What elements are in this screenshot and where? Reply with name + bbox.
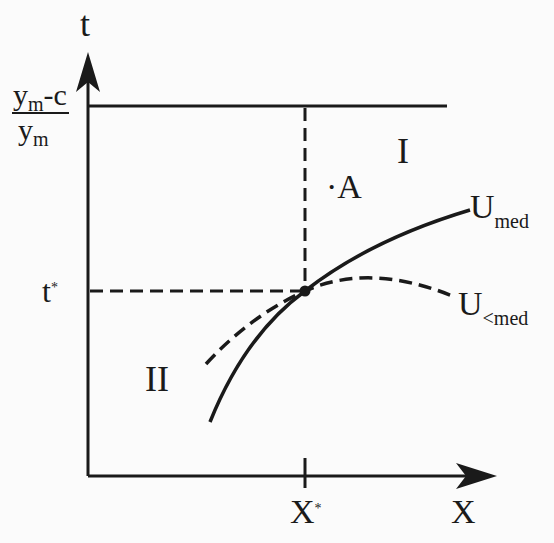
t-star-sup: * xyxy=(51,280,58,295)
denominator-subscript: m xyxy=(33,128,49,150)
fraction-denominator: ym xyxy=(18,115,49,145)
u-med-label: Umed xyxy=(470,190,529,224)
x-star-label: X* xyxy=(290,495,322,529)
x-star-main: X xyxy=(290,493,315,530)
u-below-med-subscript: <med xyxy=(483,307,529,329)
fraction-numerator: ym-c xyxy=(13,80,67,110)
u-below-med-label: U<med xyxy=(458,287,528,321)
diagram-canvas xyxy=(0,0,554,543)
u-med-subscript: med xyxy=(495,210,529,232)
point-a-label: ·A xyxy=(326,170,362,204)
region-2-label: II xyxy=(145,361,169,397)
x-axis-label: X xyxy=(451,495,476,529)
u-below-med-main: U xyxy=(458,285,483,322)
u-med-main: U xyxy=(470,188,495,225)
x-star-sup: * xyxy=(315,501,322,516)
region-1-label: I xyxy=(397,133,409,169)
t-star-main: t xyxy=(42,273,51,309)
u-below-med-curve xyxy=(206,278,455,364)
numerator-subscript: m xyxy=(28,93,44,115)
numerator-y: y xyxy=(13,78,28,111)
y-axis-label: t xyxy=(80,6,90,42)
t-star-label: t* xyxy=(42,275,58,307)
point-a-text: A xyxy=(337,168,362,205)
u-med-curve xyxy=(210,210,470,422)
denominator-y: y xyxy=(18,113,33,146)
point-a-dot: · xyxy=(326,168,337,205)
numerator-rest: -c xyxy=(44,78,67,111)
intersection-point xyxy=(300,286,311,297)
